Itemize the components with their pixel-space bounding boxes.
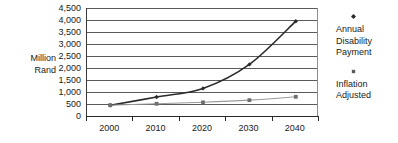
legend-label-line-1: Inflation <box>336 79 396 91</box>
y-axis-tick-label: 4,000 <box>58 16 81 25</box>
x-axis-tick-label: 2010 <box>146 123 166 134</box>
y-axis-tick-label: 2,500 <box>58 52 81 61</box>
x-axis-tick <box>86 116 87 121</box>
y-axis-tick-label: 1,000 <box>58 88 81 97</box>
data-point-marker <box>154 95 158 99</box>
legend-label-inflation-adjusted: Inflation Adjusted <box>336 79 396 102</box>
legend-marker-diamond-icon <box>336 12 370 22</box>
y-axis-tick-label: 500 <box>66 100 81 109</box>
x-axis-tick <box>132 116 133 121</box>
data-point-marker <box>201 86 205 90</box>
plot-area <box>86 8 318 116</box>
series-line <box>110 21 296 105</box>
x-axis-tick-label: 2000 <box>99 123 119 134</box>
legend-label-line-2: Disability <box>336 36 396 48</box>
legend-label-line-3: Payment <box>336 47 396 59</box>
x-axis-tick-labels: 20002010202020302040 <box>86 123 318 137</box>
x-axis-tick <box>272 116 273 121</box>
legend-label-line-2: Adjusted <box>336 90 396 102</box>
x-axis-tick <box>179 116 180 121</box>
x-axis-tick-label: 2040 <box>285 123 305 134</box>
y-axis-tick-label: 3,500 <box>58 28 81 37</box>
y-axis-tick-label: 3,000 <box>58 40 81 49</box>
data-point-marker <box>201 100 205 104</box>
x-axis-ticks <box>86 116 318 121</box>
legend: Annual Disability Payment Inflation Adju… <box>336 12 396 110</box>
legend-entry-inflation-adjusted[interactable]: Inflation Adjusted <box>336 67 396 102</box>
legend-marker-square-icon <box>336 67 370 77</box>
x-axis-tick <box>318 116 319 121</box>
x-axis-tick-label: 2030 <box>238 123 258 134</box>
data-point-marker <box>294 95 298 99</box>
legend-entry-annual-disability-payment[interactable]: Annual Disability Payment <box>336 12 396 59</box>
y-axis-tick-label: 4,500 <box>58 4 81 13</box>
y-axis-tick-label: 1,500 <box>58 76 81 85</box>
x-axis-tick <box>225 116 226 121</box>
data-point-marker <box>248 98 252 102</box>
line-chart: Million Rand 05001,0001,5002,0002,5003,0… <box>0 0 398 143</box>
y-axis-tick-label: 0 <box>76 112 81 121</box>
data-point-marker <box>155 102 159 106</box>
series-layer <box>87 8 319 116</box>
legend-label-line-1: Annual <box>336 24 396 36</box>
y-axis-tick-labels: 05001,0001,5002,0002,5003,0003,5004,0004… <box>40 8 84 116</box>
legend-label-annual-disability-payment: Annual Disability Payment <box>336 24 396 59</box>
data-point-marker <box>108 103 112 107</box>
y-axis-tick-label: 2,000 <box>58 64 81 73</box>
x-axis-tick-label: 2020 <box>192 123 212 134</box>
